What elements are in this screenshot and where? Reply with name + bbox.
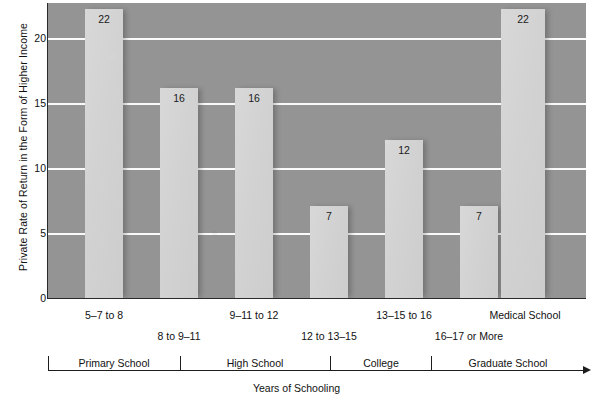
group-divider-1 [180, 356, 181, 371]
x-axis-line [47, 298, 586, 299]
bar-3[interactable]: 7 [310, 206, 348, 298]
bar-value-3: 7 [310, 211, 348, 222]
bar-4[interactable]: 12 [385, 140, 423, 298]
y-axis-line [47, 3, 48, 299]
group-divider-2 [330, 356, 331, 371]
bar-0[interactable]: 22 [85, 9, 123, 298]
group-divider-3 [431, 356, 432, 371]
x-category-label-1: 8 to 9–11 [157, 330, 200, 342]
bar-5[interactable]: 7 [460, 206, 498, 298]
y-axis-tick-labels: 0 5 10 15 20 [24, 0, 46, 310]
group-label-high-school: High School [227, 357, 284, 370]
axis-arrow-icon [583, 366, 591, 374]
schooling-axis-line [48, 370, 586, 371]
y-tick-0: 0 [40, 293, 46, 303]
group-label-graduate-school: Graduate School [469, 357, 548, 370]
y-tick-15: 15 [34, 98, 46, 108]
bar-value-6: 22 [501, 14, 545, 25]
x-category-label-5: 16–17 or More [435, 330, 503, 342]
chart-plot-area: 22 16 16 7 12 7 22 [48, 3, 586, 298]
y-tick-20: 20 [34, 33, 46, 43]
group-label-college: College [363, 357, 399, 370]
x-category-label-4: 13–15 to 16 [376, 309, 431, 321]
x-category-label-3: 12 to 13–15 [301, 330, 356, 342]
bar-value-0: 22 [85, 14, 123, 25]
bar-6[interactable]: 22 [501, 9, 545, 298]
y-tick-10: 10 [34, 163, 46, 173]
y-tick-5: 5 [40, 228, 46, 238]
x-category-label-6: Medical School [489, 309, 560, 321]
x-category-label-2: 9–11 to 12 [230, 309, 279, 321]
bar-value-5: 7 [460, 211, 498, 222]
bar-value-4: 12 [385, 145, 423, 156]
bar-value-2: 16 [235, 93, 273, 104]
x-category-label-0: 5–7 to 8 [85, 309, 123, 321]
bar-2[interactable]: 16 [235, 88, 273, 298]
group-label-primary-school: Primary School [78, 357, 149, 370]
axis-start-tick [48, 356, 49, 371]
bar-value-1: 16 [160, 93, 198, 104]
x-axis-title: Years of Schooling [0, 382, 593, 394]
bar-1[interactable]: 16 [160, 88, 198, 298]
